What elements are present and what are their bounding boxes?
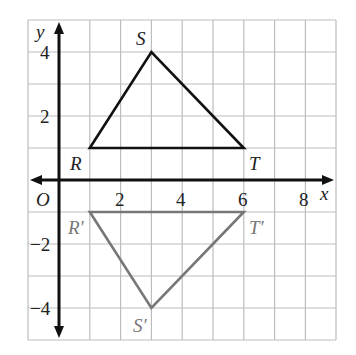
y-axis-label: y: [34, 21, 45, 42]
origin-label: O: [36, 189, 50, 210]
triangle-rst: [90, 52, 244, 148]
x-tick-2: 2: [115, 189, 125, 210]
arrow-down-icon: [54, 326, 64, 338]
x-tick-6: 6: [238, 189, 248, 210]
x-axis-label: x: [319, 183, 329, 204]
vertex-label-s-prime: S′: [133, 315, 148, 336]
coordinate-plane: y x O 2 4 6 8 4 2 −2 −4 S R T R′ S′ T′: [0, 0, 356, 355]
y-tick-2: 2: [40, 106, 50, 127]
arrow-up-icon: [54, 22, 64, 34]
vertex-label-t: T: [249, 153, 261, 174]
vertex-label-r: R: [69, 153, 82, 174]
x-tick-8: 8: [299, 189, 309, 210]
vertex-label-t-prime: T′: [249, 217, 265, 238]
y-tick-neg2: −2: [30, 234, 50, 255]
x-tick-4: 4: [176, 189, 186, 210]
y-tick-4: 4: [40, 42, 50, 63]
arrow-left-icon: [30, 175, 42, 185]
vertex-label-s: S: [136, 28, 146, 49]
y-tick-neg4: −4: [30, 298, 51, 319]
triangle-rst-prime: [90, 212, 244, 308]
vertex-label-r-prime: R′: [67, 217, 85, 238]
